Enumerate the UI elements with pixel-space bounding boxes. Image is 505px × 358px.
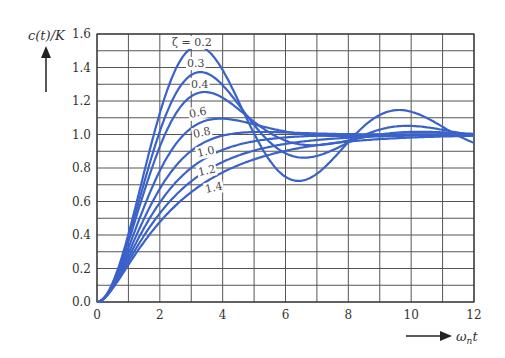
zeta-label: 0.4: [191, 78, 209, 91]
x-axis-title: ωnt: [456, 329, 478, 346]
grid: [97, 34, 474, 302]
tick-labels: 0246810120.00.20.40.60.81.01.21.41.6: [72, 27, 482, 322]
zeta-label: 1.4: [204, 180, 224, 196]
y-tick-label: 0.8: [72, 161, 91, 175]
x-tick-label: 4: [219, 308, 227, 322]
zeta-label: 0.3: [187, 57, 205, 70]
zeta-label: 0.6: [188, 105, 208, 121]
y-axis-title: c(t)/K: [28, 28, 66, 43]
y-axis-label: c(t)/K: [28, 28, 66, 92]
x-tick-label: 10: [404, 308, 419, 322]
x-axis-label: ωnt: [406, 329, 478, 346]
x-tick-label: 6: [282, 308, 290, 322]
y-tick-label: 0.2: [72, 262, 91, 276]
right-arrow-head-icon: [440, 331, 452, 341]
y-tick-label: 1.2: [72, 94, 91, 108]
zeta-label: 0.8: [192, 125, 212, 141]
x-tick-label: 12: [466, 308, 481, 322]
y-tick-label: 0.6: [72, 195, 91, 209]
zeta-label: 1.0: [196, 144, 216, 160]
up-arrow-head-icon: [41, 46, 51, 58]
y-tick-label: 1.0: [72, 128, 91, 142]
y-tick-label: 1.6: [72, 27, 91, 41]
x-tick-label: 8: [345, 308, 353, 322]
y-tick-label: 0.0: [72, 295, 91, 309]
y-tick-label: 1.4: [72, 61, 91, 75]
x-tick-label: 0: [93, 308, 101, 322]
y-tick-label: 0.4: [72, 228, 91, 242]
x-tick-label: 2: [156, 308, 164, 322]
step-response-chart: ζ = 0.20.30.40.60.81.01.21.4 0246810120.…: [0, 0, 505, 358]
zeta-label: ζ = 0.2: [172, 36, 212, 49]
